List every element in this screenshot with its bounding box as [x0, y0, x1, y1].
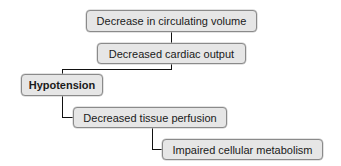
node-label: Decreased cardiac output [109, 48, 234, 60]
node-label: Decreased tissue perfusion [83, 112, 216, 124]
connector-n4-n5-horizontal [152, 149, 162, 150]
node-label: Decrease in circulating volume [97, 15, 247, 27]
node-label: Hypotension [29, 79, 96, 91]
node-impaired-cellular-metabolism: Impaired cellular metabolism [162, 139, 323, 160]
node-decreased-tissue-perfusion: Decreased tissue perfusion [73, 107, 227, 128]
node-decreased-cardiac-output: Decreased cardiac output [97, 43, 246, 64]
node-hypotension: Hypotension [21, 74, 103, 96]
node-label: Impaired cellular metabolism [173, 144, 313, 156]
connector-n2-n3-horizontal [62, 69, 172, 70]
node-decrease-circulating-volume: Decrease in circulating volume [86, 10, 257, 32]
connector-n3-n4-horizontal [62, 117, 73, 118]
connector-n4-n5-vertical [152, 128, 153, 150]
connector-n1-n2 [171, 32, 172, 43]
connector-n3-n4-vertical [62, 96, 63, 118]
